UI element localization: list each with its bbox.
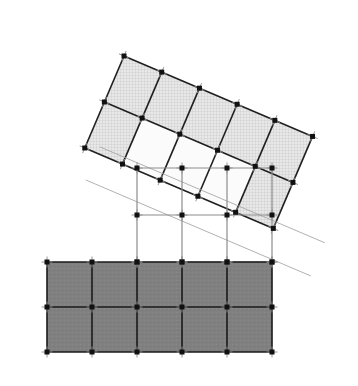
- mesh-node: [158, 178, 163, 183]
- mesh-node: [253, 164, 258, 169]
- horizontal-lower-mesh: [47, 262, 272, 352]
- mesh-node: [180, 260, 185, 265]
- mesh-node: [195, 194, 200, 199]
- mesh-cell: [227, 262, 272, 307]
- mesh-node: [135, 350, 140, 355]
- mesh-node: [90, 350, 95, 355]
- mesh-node: [135, 166, 140, 171]
- mesh-node: [270, 350, 275, 355]
- mesh-node: [180, 305, 185, 310]
- mesh-node: [135, 260, 140, 265]
- mesh-cell: [47, 307, 92, 352]
- mesh-cell: [92, 307, 137, 352]
- mesh-node: [180, 350, 185, 355]
- mesh-node: [270, 213, 275, 218]
- mesh-node: [215, 148, 220, 153]
- mesh-node: [225, 350, 230, 355]
- mesh-cell: [47, 262, 92, 307]
- mesh-cell: [182, 262, 227, 307]
- mesh-cell: [92, 262, 137, 307]
- mesh-node: [122, 54, 127, 59]
- mesh-node: [197, 86, 202, 91]
- mesh-node: [120, 162, 125, 167]
- mesh-node: [225, 166, 230, 171]
- mesh-node: [45, 350, 50, 355]
- mesh-node: [225, 260, 230, 265]
- mesh-node: [290, 180, 295, 185]
- mesh-node: [180, 213, 185, 218]
- mesh-node: [180, 166, 185, 171]
- mesh-diagram-svg: [0, 0, 358, 386]
- mesh-node: [140, 116, 145, 121]
- mesh-node: [270, 260, 275, 265]
- mesh-node: [272, 118, 277, 123]
- mesh-node: [45, 305, 50, 310]
- mesh-node: [82, 145, 87, 150]
- mesh-node: [102, 99, 107, 104]
- mesh-node: [271, 226, 276, 231]
- mesh-node: [225, 305, 230, 310]
- mesh-cell: [137, 307, 182, 352]
- mesh-node: [177, 132, 182, 137]
- mesh-node: [235, 102, 240, 107]
- mesh-node: [159, 70, 164, 75]
- mesh-node: [135, 305, 140, 310]
- mesh-cell: [182, 307, 227, 352]
- mesh-node: [90, 260, 95, 265]
- mesh-cell: [227, 307, 272, 352]
- diagram-canvas: Overlapping finite element meshes Two 5x…: [0, 0, 358, 386]
- mesh-node: [225, 213, 230, 218]
- mesh-node: [45, 260, 50, 265]
- mesh-node: [233, 210, 238, 215]
- mesh-node: [310, 134, 315, 139]
- mesh-node: [90, 305, 95, 310]
- rotated-upper-mesh: [85, 56, 313, 228]
- mesh-node: [270, 305, 275, 310]
- mesh-node: [135, 213, 140, 218]
- mesh-cell: [137, 262, 182, 307]
- mesh-node: [270, 166, 275, 171]
